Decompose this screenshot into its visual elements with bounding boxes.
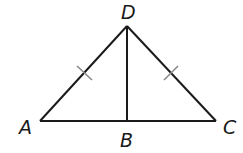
- triangle-diagram: D A B C: [0, 0, 243, 153]
- label-c: C: [223, 116, 237, 138]
- label-d: D: [121, 1, 136, 23]
- label-b: B: [120, 129, 133, 151]
- segment-ad: [40, 26, 127, 121]
- label-a: A: [17, 116, 32, 138]
